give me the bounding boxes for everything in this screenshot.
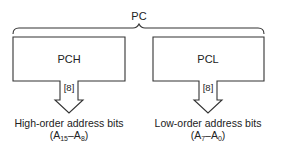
range-lo-base: A (74, 129, 81, 141)
pcl-caption: Low-order address bits (A7–A0) (140, 117, 276, 145)
pcl-address-range: (A7–A0) (140, 129, 276, 145)
range-lo-sub: 0 (218, 135, 222, 142)
range-hi-sub: 15 (60, 135, 68, 142)
range-lo-sub: 8 (81, 135, 85, 142)
range-hi-sub: 7 (201, 135, 205, 142)
pcl-label: PCL (197, 53, 218, 65)
pc-label: PC (131, 10, 146, 22)
pch-bus-width: [8] (64, 82, 75, 93)
pch-register-box (13, 37, 125, 113)
pcl-register-box (153, 37, 264, 113)
pc-brace (13, 24, 264, 34)
pch-label: PCH (57, 53, 80, 65)
pcl-bus-width: [8] (203, 82, 214, 93)
range-lo-base: A (211, 129, 218, 141)
pch-address-range: (A15–A8) (0, 129, 138, 145)
pcl-caption-text: Low-order address bits (140, 117, 276, 129)
pch-caption-text: High-order address bits (0, 117, 138, 129)
pch-caption: High-order address bits (A15–A8) (0, 117, 138, 145)
